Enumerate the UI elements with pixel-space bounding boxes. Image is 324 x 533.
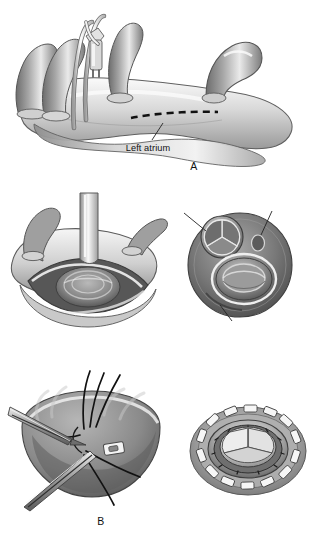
label-left-atrium: Left atrium bbox=[103, 143, 193, 154]
panel-c: Aortic valve Atrioventricular node Circu… bbox=[176, 205, 306, 325]
panel-e-artwork bbox=[190, 405, 306, 495]
panel-b: B bbox=[2, 185, 168, 340]
panel-b-artwork bbox=[11, 193, 167, 327]
panel-a: Left atrium A bbox=[0, 0, 324, 180]
panel-d: D bbox=[8, 365, 173, 510]
panel-d-artwork bbox=[8, 371, 160, 511]
surgical-figure: Left atrium A bbox=[0, 0, 324, 533]
panel-letter-a: A bbox=[174, 160, 214, 172]
panel-e: E bbox=[186, 395, 310, 507]
panel-c-artwork bbox=[184, 211, 292, 321]
panel-letter-b: B bbox=[81, 515, 121, 527]
